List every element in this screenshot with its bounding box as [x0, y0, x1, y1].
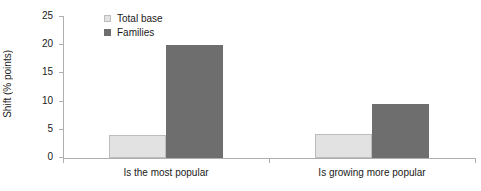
y-axis-tick-label: 5 [47, 122, 53, 135]
x-axis-category-label: Is the most popular [123, 167, 208, 178]
bar-families [166, 45, 223, 158]
y-axis-tick: 25 [59, 16, 63, 17]
y-axis-tick-label: 15 [42, 65, 53, 78]
legend-item: Total base [104, 12, 163, 25]
x-axis-category-label: Is growing more popular [318, 167, 425, 178]
x-axis-tick [269, 158, 270, 163]
x-axis-tick [63, 158, 64, 163]
chart-legend: Total baseFamilies [104, 12, 163, 40]
y-axis-tick-label: 25 [42, 9, 53, 22]
x-axis-tick [475, 158, 476, 163]
bar-families [372, 104, 429, 158]
legend-swatch-icon [104, 29, 111, 36]
y-axis-tick: 10 [59, 101, 63, 102]
y-axis-tick-label: 0 [47, 150, 53, 163]
bar-total-base [315, 134, 372, 158]
y-axis-tick-label: 20 [42, 37, 53, 50]
y-axis-tick-label: 10 [42, 94, 53, 107]
legend-label: Total base [117, 12, 163, 25]
legend-item: Families [104, 26, 163, 39]
y-axis-title: Shift (% points) [2, 50, 16, 118]
bar-chart: Shift (% points) 0510152025 Total baseFa… [0, 0, 481, 191]
y-axis-tick: 5 [59, 129, 63, 130]
bar-total-base [109, 135, 166, 158]
y-axis-tick: 20 [59, 44, 63, 45]
legend-swatch-icon [104, 15, 111, 22]
y-axis-tick: 15 [59, 72, 63, 73]
legend-label: Families [117, 26, 154, 39]
